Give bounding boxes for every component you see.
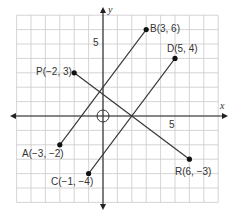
x-tick-label-5: 5 [169,119,175,130]
label-A: A(−3, −2) [22,148,64,159]
point-P [72,70,77,75]
x-axis-right-arrow-icon [222,113,228,119]
y-axis-label: y [107,4,113,15]
point-D [172,56,177,61]
label-R: R(6, −3) [175,166,211,177]
label-P: P(−2, 3) [36,66,72,77]
point-B [144,27,149,32]
y-axis-up-arrow-icon [100,7,106,13]
point-A [57,142,62,147]
label-D: D(5, 4) [167,43,198,54]
point-R [187,157,192,162]
y-axis-down-arrow-icon [100,204,106,210]
label-C: C(−1, −4) [51,176,93,187]
x-axis-left-arrow-icon [10,113,16,119]
y-tick-label-5: 5 [93,37,99,48]
coordinate-plane: x y 5 5 B(3, 6) D(5, 4) P(−2, 3) A(−3, −… [0,0,235,216]
x-axis-label: x [219,100,225,111]
label-B: B(3, 6) [150,23,180,34]
